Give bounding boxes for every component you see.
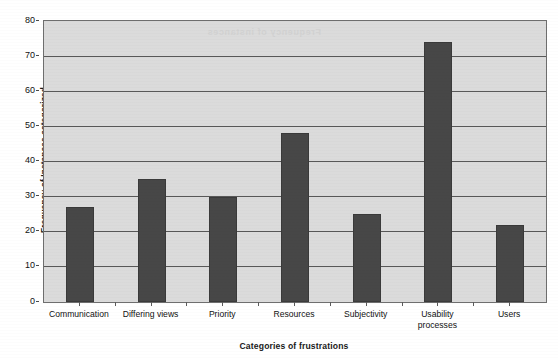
x-axis-category-divider [402,302,403,306]
x-axis-tick-mark [222,302,223,306]
y-axis-tick-mark [36,230,39,231]
bar-slot [116,21,188,302]
y-axis-tick-label: 10 [0,261,39,270]
x-axis-tick-mark [294,302,295,306]
bar-slot [259,21,331,302]
x-axis-tick-mark [79,302,80,306]
x-axis-category-divider [330,302,331,306]
y-axis-tick-label: 80 [0,16,39,25]
plot-area: Frequency of instances [43,20,547,303]
y-axis-tick-mark [36,55,39,56]
x-axis-tick-label: Users [466,309,552,320]
x-axis-category-divider [473,302,474,306]
bar [353,214,381,302]
bar-slot [403,21,475,302]
bar [281,133,309,302]
x-axis-category-divider [186,302,187,306]
plot-inner: Frequency of instances [44,21,546,302]
bar-slot [474,21,546,302]
x-axis-title: Categories of frustrations [43,341,545,351]
y-axis-tick-mark [36,90,39,91]
y-axis-tick-labels: 01020304050607080 [0,20,39,301]
y-axis-tick-mark [36,301,39,302]
y-axis-tick-label: 60 [0,86,39,95]
y-axis-tick-label: 30 [0,191,39,200]
y-axis-tick-mark [36,125,39,126]
y-axis-tick-label: 0 [0,297,39,306]
y-axis-tick-label: 50 [0,121,39,130]
x-axis-tick-mark [437,302,438,306]
bar-chart-figure: Frequency of Instances categorized 01020… [0,0,558,358]
y-axis-tick-label: 20 [0,226,39,235]
bar [66,207,94,302]
x-axis-tick-mark [151,302,152,306]
y-axis-tick-label: 70 [0,51,39,60]
bar-slot [331,21,403,302]
x-axis-tick-mark [366,302,367,306]
bar [424,42,452,302]
bar-slot [44,21,116,302]
y-axis-tick-label: 40 [0,156,39,165]
x-axis-category-divider [115,302,116,306]
x-axis-tick-mark [509,302,510,306]
x-axis-category-divider [258,302,259,306]
x-axis-tick-labels: CommunicationDiffering viewsPriorityReso… [43,302,547,336]
bar [209,197,237,302]
bar-slot [187,21,259,302]
y-axis-tick-mark [36,265,39,266]
y-axis-tick-mark [36,160,39,161]
bar [496,225,524,302]
y-axis-tick-mark [36,20,39,21]
y-axis-tick-mark [36,195,39,196]
bar [138,179,166,302]
